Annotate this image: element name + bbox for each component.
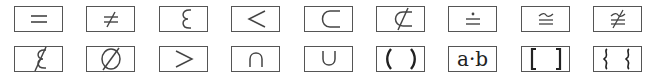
greater-than-button[interactable] xyxy=(159,46,208,72)
congruent-button[interactable] xyxy=(521,6,570,32)
parentheses-button[interactable] xyxy=(376,46,425,72)
element-of-button[interactable] xyxy=(159,6,208,32)
not-subset-icon xyxy=(384,7,418,31)
parentheses-icon xyxy=(381,47,421,71)
not-element-of-button[interactable] xyxy=(14,46,63,72)
not-congruent-icon xyxy=(603,9,633,29)
intersection-button[interactable] xyxy=(231,46,280,72)
not-congruent-button[interactable] xyxy=(593,6,642,32)
brackets-button[interactable] xyxy=(521,46,570,72)
intersection-icon xyxy=(241,48,271,70)
braces-icon xyxy=(598,47,638,71)
equals-icon xyxy=(24,11,54,27)
less-than-icon xyxy=(241,8,271,30)
empty-set-icon xyxy=(94,46,128,72)
greater-than-icon xyxy=(169,48,199,70)
not-equal-icon xyxy=(96,10,126,28)
not-subset-button[interactable] xyxy=(376,6,425,32)
union-button[interactable] xyxy=(304,46,353,72)
not-element-of-icon xyxy=(24,46,54,72)
union-icon xyxy=(314,48,344,70)
less-than-button[interactable] xyxy=(231,6,280,32)
dot-product-icon: a·b xyxy=(457,49,488,69)
dot-product-button[interactable]: a·b xyxy=(448,46,497,72)
subset-icon xyxy=(312,8,346,30)
braces-button[interactable] xyxy=(593,46,642,72)
element-of-icon xyxy=(169,7,199,31)
equals-button[interactable] xyxy=(14,6,63,32)
subset-button[interactable] xyxy=(304,6,353,32)
dot-equal-icon xyxy=(458,10,488,28)
empty-set-button[interactable] xyxy=(86,46,135,72)
dot-equal-button[interactable] xyxy=(448,6,497,32)
brackets-icon xyxy=(526,47,566,71)
congruent-icon xyxy=(531,10,561,28)
not-equals-button[interactable] xyxy=(86,6,135,32)
math-symbol-palette: a·b xyxy=(0,0,653,81)
